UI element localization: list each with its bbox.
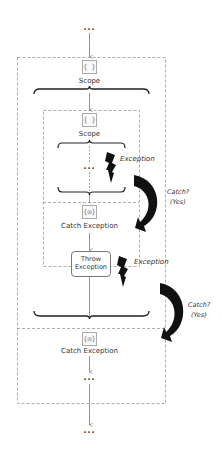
outer-catch-label: Catch Exception (61, 348, 118, 355)
outer-catch-ellipsis: ... (83, 374, 95, 382)
inner-catch-label: Catch Exception (61, 223, 118, 230)
catch-yes-2: (Yes) (191, 312, 207, 319)
outer-scope-brace-bottom (34, 311, 149, 319)
inner-scope-label: Scope (79, 131, 100, 138)
exception-label-2: Exception (134, 259, 169, 266)
catch-question-1: Catch? (167, 189, 189, 196)
throw-line2: Exception (72, 264, 110, 272)
catch-icon: {◎} (82, 332, 97, 346)
top-ellipsis: ... (83, 24, 95, 32)
inner-scope-ellipsis: ... (83, 163, 95, 171)
catch-curved-arrow-icon (160, 283, 183, 342)
scope-braces-icon: { } (82, 113, 97, 127)
inner-scope-brace-bottom (58, 187, 125, 195)
lightning-icon (105, 152, 116, 183)
catch-icon: {◎} (82, 205, 97, 219)
lightning-icon (117, 256, 128, 287)
outer-scope-brace (34, 86, 149, 94)
catch-question-2: Catch? (188, 302, 210, 309)
catch-yes-1: (Yes) (170, 199, 186, 206)
outer-scope-label: Scope (79, 78, 100, 85)
throw-exception-box: Throw Exception (71, 251, 111, 277)
bottom-ellipsis: ... (83, 427, 95, 435)
inner-scope-brace-top (58, 140, 125, 148)
catch-curved-arrow-icon (134, 175, 157, 232)
exception-label: Exception (120, 156, 155, 163)
scope-braces-icon: { } (82, 60, 97, 74)
